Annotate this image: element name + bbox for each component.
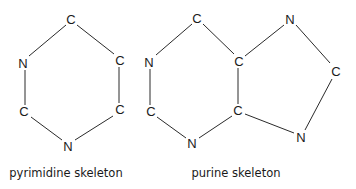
bond bbox=[77, 25, 114, 54]
atom-carbon: C bbox=[192, 11, 201, 26]
atom-nitrogen: N bbox=[187, 136, 196, 151]
atom-carbon: C bbox=[19, 104, 28, 119]
purine-caption: purine skeleton bbox=[192, 166, 281, 180]
bond bbox=[296, 25, 330, 63]
bond bbox=[199, 116, 232, 138]
atom-carbon: C bbox=[66, 12, 75, 27]
purine-bonds bbox=[150, 24, 332, 138]
atom-carbon: C bbox=[331, 64, 340, 79]
pyrimidine-structure: C N C C C N pyrimidine skeleton bbox=[9, 12, 124, 181]
atom-carbon: C bbox=[115, 53, 124, 68]
atom-carbon: C bbox=[115, 102, 124, 117]
bond bbox=[305, 79, 332, 130]
bond bbox=[203, 24, 234, 54]
atom-carbon: C bbox=[146, 104, 155, 119]
bond bbox=[75, 116, 113, 140]
atom-nitrogen: N bbox=[63, 139, 72, 154]
purine-structure: C N C C C N N C N purine skeleton bbox=[144, 11, 340, 181]
bond bbox=[31, 117, 62, 140]
atom-carbon: C bbox=[233, 103, 242, 118]
atom-nitrogen: N bbox=[285, 12, 294, 27]
pyrimidine-bonds bbox=[25, 25, 119, 140]
bond bbox=[157, 117, 186, 138]
atom-nitrogen: N bbox=[296, 130, 305, 145]
atom-carbon: C bbox=[234, 54, 243, 69]
bond bbox=[156, 24, 192, 55]
bond bbox=[245, 25, 284, 56]
bond bbox=[245, 114, 294, 133]
atom-nitrogen: N bbox=[144, 55, 153, 70]
chemical-skeleton-diagram: C N C C C N pyrimidine skeleton C N C C … bbox=[0, 0, 356, 189]
bond bbox=[29, 25, 66, 56]
atom-nitrogen: N bbox=[18, 56, 27, 71]
pyrimidine-caption: pyrimidine skeleton bbox=[9, 166, 122, 180]
